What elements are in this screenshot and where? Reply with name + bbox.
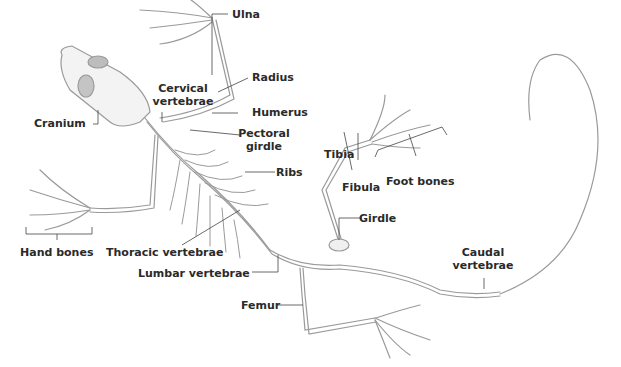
label-pectoral-line2: girdle <box>236 140 292 153</box>
lizard-skeleton-diagram: Ulna Radius Cervical vertebrae Cranium H… <box>0 0 621 367</box>
label-pectoral-line1: Pectoral <box>236 127 292 140</box>
label-girdle: Girdle <box>359 212 396 225</box>
label-lumbar-vertebrae: Lumbar vertebrae <box>138 267 250 280</box>
label-cranium: Cranium <box>34 117 86 130</box>
label-ribs: Ribs <box>276 166 303 179</box>
label-caudal-line1: Caudal <box>450 246 516 259</box>
label-cervical-line2: vertebrae <box>150 95 216 108</box>
label-femur: Femur <box>241 299 280 312</box>
label-caudal-line2: vertebrae <box>450 259 516 272</box>
label-cervical-vertebrae: Cervical vertebrae <box>150 82 216 108</box>
label-ulna: Ulna <box>232 8 260 21</box>
label-humerus: Humerus <box>252 106 308 119</box>
label-caudal-vertebrae: Caudal vertebrae <box>450 246 516 272</box>
label-hand-bones: Hand bones <box>20 246 93 259</box>
label-thoracic-vertebrae: Thoracic vertebrae <box>106 246 223 259</box>
label-pectoral-girdle: Pectoral girdle <box>236 127 292 153</box>
label-fibula: Fibula <box>342 181 380 194</box>
label-tibia: Tibia <box>324 148 354 161</box>
skeleton-illustration <box>0 0 621 367</box>
label-radius: Radius <box>252 71 294 84</box>
label-foot-bones: Foot bones <box>386 175 455 188</box>
label-cervical-line1: Cervical <box>150 82 216 95</box>
